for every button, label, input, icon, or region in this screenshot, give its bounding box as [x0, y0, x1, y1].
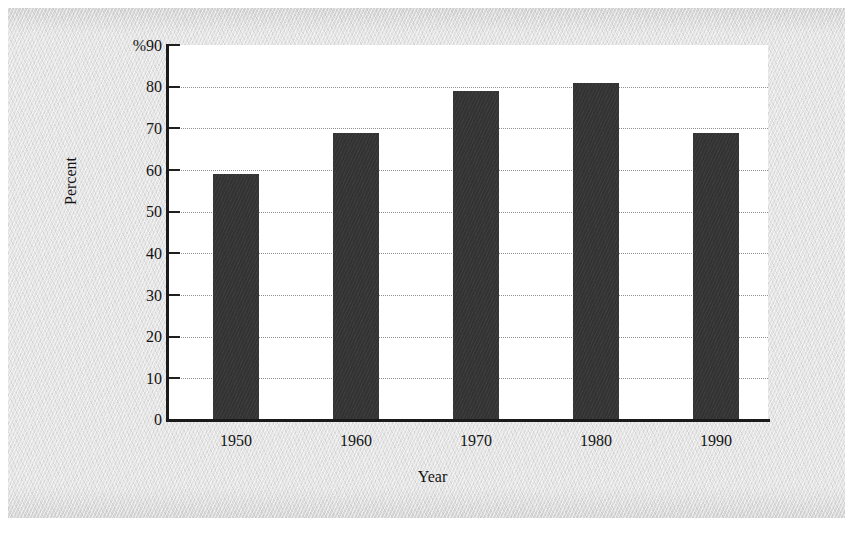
y-tick-label-20: 20	[146, 329, 162, 345]
y-axis-tick-labels: %90 80 70 60 50 40 30 20 10 0	[40, 0, 162, 533]
y-tick-label-60: 60	[146, 163, 162, 179]
figure-canvas: Percent %90 80 70 60 50 40 30 20 10 0 19…	[0, 0, 865, 533]
y-tick-label-70: 70	[146, 121, 162, 137]
bar-1980	[573, 83, 619, 421]
x-tick-label-1960: 1960	[311, 432, 401, 450]
x-tick-label-1950: 1950	[191, 432, 281, 450]
bar-1950	[213, 174, 259, 420]
y-tick-label-90: %90	[133, 38, 162, 54]
y-tick-label-30: 30	[146, 288, 162, 304]
y-tick-label-10: 10	[146, 371, 162, 387]
gridline-80	[168, 87, 768, 88]
y-tick-label-80: 80	[146, 79, 162, 95]
bar-1970	[453, 91, 499, 420]
y-tick-label-0: 0	[154, 412, 162, 428]
y-tick-label-40: 40	[146, 246, 162, 262]
x-tick-label-1980: 1980	[551, 432, 641, 450]
x-axis-title: Year	[0, 468, 865, 486]
plot-area	[168, 45, 768, 420]
bar-1990	[693, 133, 739, 421]
x-tick-label-1990: 1990	[671, 432, 761, 450]
bar-1960	[333, 133, 379, 421]
x-axis-line	[166, 419, 770, 422]
y-tick-label-50: 50	[146, 204, 162, 220]
x-tick-label-1970: 1970	[431, 432, 521, 450]
y-axis-line	[166, 44, 169, 422]
